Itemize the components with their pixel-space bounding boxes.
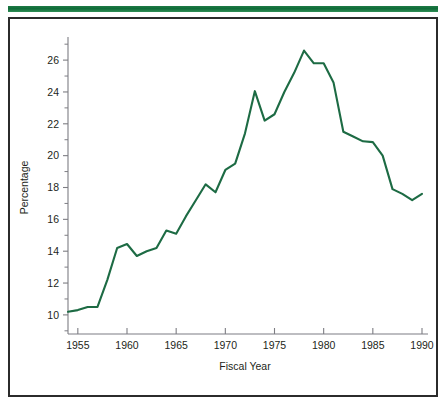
series-line-Percentage <box>68 51 422 312</box>
y-tick-label: 18 <box>47 181 59 193</box>
x-tick-label: 1975 <box>263 339 287 351</box>
y-tick-label: 16 <box>47 213 59 225</box>
x-tick-label: 1985 <box>361 339 385 351</box>
x-axis-title: Fiscal Year <box>219 360 271 372</box>
y-tick-group: 101214161820222426 <box>47 44 68 331</box>
y-tick-label: 26 <box>47 54 59 66</box>
x-tick-label: 1970 <box>214 339 238 351</box>
y-tick-label: 14 <box>47 245 59 257</box>
x-tick-label: 1965 <box>164 339 188 351</box>
series-group <box>68 51 422 312</box>
y-tick-label: 24 <box>47 86 59 98</box>
y-tick-label: 20 <box>47 149 59 161</box>
figure-frame: 101214161820222426 195519601965197019751… <box>8 17 438 397</box>
y-axis-title: Percentage <box>18 160 30 214</box>
line-chart: 101214161820222426 195519601965197019751… <box>10 19 440 399</box>
header-accent-bar <box>8 6 438 12</box>
x-tick-label: 1955 <box>66 339 90 351</box>
x-tick-group: 19551960196519701975198019851990 <box>66 328 434 351</box>
y-tick-label: 10 <box>47 309 59 321</box>
chart-page: 101214161820222426 195519601965197019751… <box>0 0 446 410</box>
x-tick-label: 1980 <box>312 339 336 351</box>
y-tick-label: 12 <box>47 277 59 289</box>
x-tick-label: 1990 <box>410 339 434 351</box>
axes <box>68 37 428 334</box>
plot-area: 101214161820222426 195519601965197019751… <box>10 19 440 399</box>
x-tick-label: 1960 <box>115 339 139 351</box>
y-tick-label: 22 <box>47 118 59 130</box>
